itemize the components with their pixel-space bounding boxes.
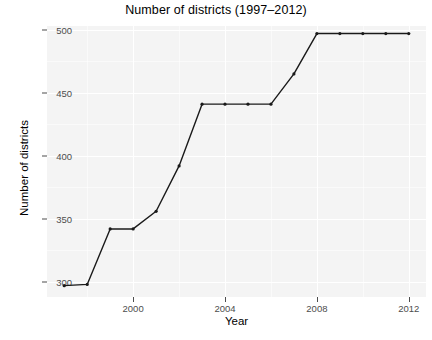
gridline-major-vertical	[225, 26, 226, 297]
y-axis-tick-label: 350	[32, 213, 72, 224]
plot-panel	[47, 26, 426, 297]
gridline-major-vertical	[133, 26, 134, 297]
y-axis-tick-label: 500	[32, 24, 72, 35]
x-axis-tick-mark	[225, 297, 226, 302]
gridline-minor-horizontal	[47, 187, 426, 188]
y-axis-title: Number of districts	[18, 88, 30, 248]
gridline-major-horizontal	[47, 282, 426, 283]
x-axis-tick-label: 2004	[214, 303, 235, 314]
y-axis-tick-label: 400	[32, 150, 72, 161]
gridline-minor-vertical	[271, 26, 272, 297]
x-axis-tick-mark	[317, 297, 318, 302]
gridline-major-horizontal	[47, 219, 426, 220]
gridline-major-horizontal	[47, 30, 426, 31]
gridline-minor-vertical	[179, 26, 180, 297]
y-axis-tick-mark	[42, 218, 47, 219]
gridline-minor-horizontal	[47, 124, 426, 125]
y-axis-tick-mark	[42, 92, 47, 93]
gridline-major-vertical	[409, 26, 410, 297]
gridline-major-vertical	[317, 26, 318, 297]
x-axis-tick-mark	[409, 297, 410, 302]
x-axis-title: Year	[47, 315, 426, 327]
y-axis-tick-mark	[42, 155, 47, 156]
gridline-major-horizontal	[47, 156, 426, 157]
x-axis-tick-label: 2000	[123, 303, 144, 314]
gridline-major-horizontal	[47, 93, 426, 94]
gridline-minor-horizontal	[47, 61, 426, 62]
x-axis-tick-label: 2008	[306, 303, 327, 314]
gridline-minor-horizontal	[47, 250, 426, 251]
y-axis-tick-mark	[42, 281, 47, 282]
chart-title: Number of districts (1997–2012)	[0, 3, 432, 17]
x-axis-tick-mark	[133, 297, 134, 302]
chart-container: Number of districts (1997–2012) 30035040…	[0, 0, 432, 340]
y-axis-tick-label: 300	[32, 276, 72, 287]
gridline-minor-vertical	[87, 26, 88, 297]
y-axis-tick-mark	[42, 29, 47, 30]
x-axis-tick-label: 2012	[398, 303, 419, 314]
y-axis-tick-label: 450	[32, 87, 72, 98]
gridline-minor-vertical	[363, 26, 364, 297]
